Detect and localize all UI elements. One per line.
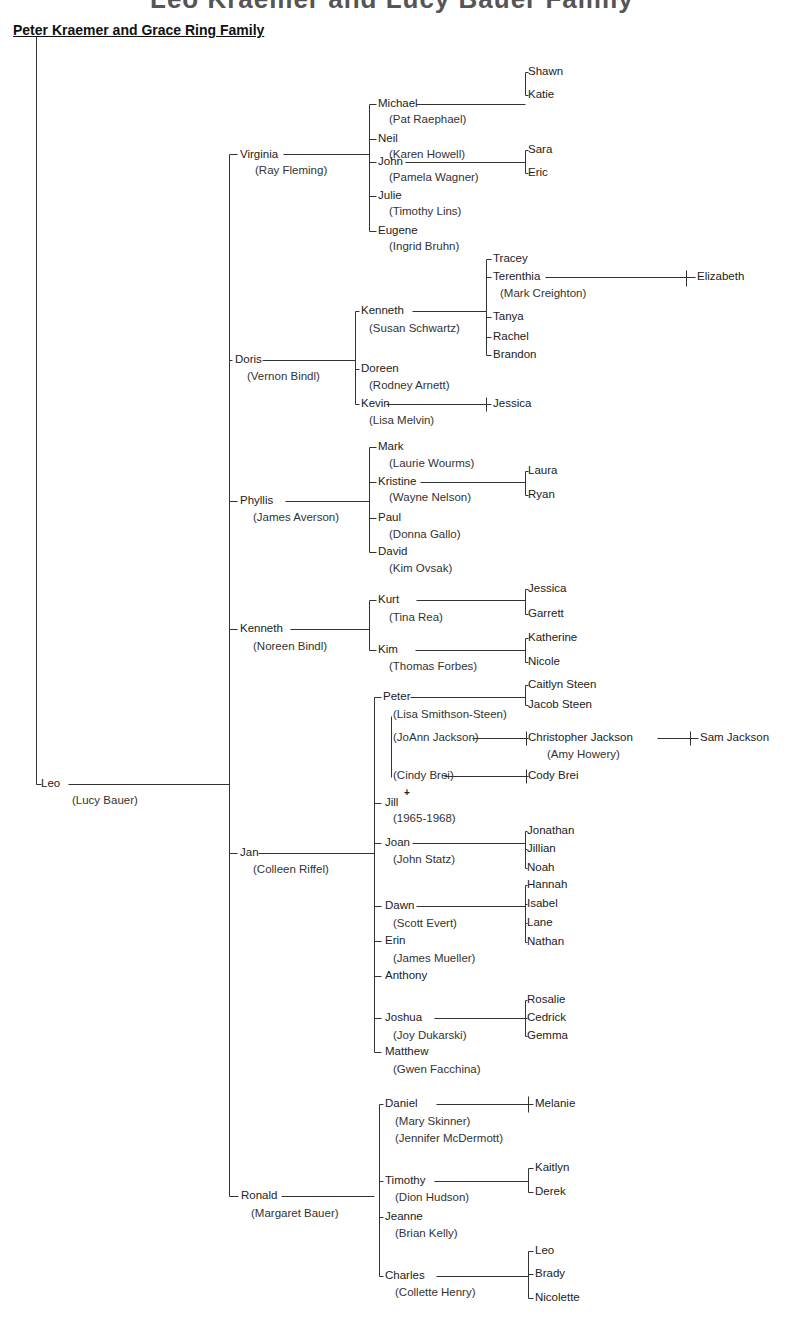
spouse-label: (Lisa Smithson-Steen) xyxy=(393,708,507,721)
spouse-label: (Scott Evert) xyxy=(393,917,457,930)
person-label: Rachel xyxy=(493,330,529,343)
person-label: Cedrick xyxy=(527,1011,566,1024)
spouse-label: (John Statz) xyxy=(393,853,455,866)
person-label: Julie xyxy=(378,189,402,202)
spouse-label: (Dion Hudson) xyxy=(395,1191,469,1204)
person-label: Kevin xyxy=(361,397,390,410)
spouse-label: (Ray Fleming) xyxy=(255,164,327,177)
person-label: Daniel xyxy=(385,1097,418,1110)
person-label: Brandon xyxy=(493,348,536,361)
person-label: Kim xyxy=(378,643,398,656)
spouse-label: (Collette Henry) xyxy=(395,1286,476,1299)
person-label: Sara xyxy=(528,143,552,156)
spouse-label: (Ingrid Bruhn) xyxy=(389,240,459,253)
spouse-label: (Susan Schwartz) xyxy=(369,322,460,335)
person-label: Jessica xyxy=(528,582,566,595)
spouse-label: (Noreen Bindl) xyxy=(253,640,327,653)
person-label: Eric xyxy=(528,166,548,179)
person-label: Jillian xyxy=(527,842,556,855)
person-label: Nicolette xyxy=(535,1291,580,1304)
person-label: Elizabeth xyxy=(697,270,744,283)
person-label: Doris xyxy=(235,353,262,366)
person-label: (1965-1968) xyxy=(393,812,456,825)
person-label: Jeanne xyxy=(385,1210,423,1223)
person-label: Terenthia xyxy=(493,270,540,283)
spouse-label: (JoAnn Jackson) xyxy=(393,731,479,744)
person-label: Leo xyxy=(535,1244,554,1257)
spouse-label: (Brian Kelly) xyxy=(395,1227,458,1240)
person-label: Melanie xyxy=(535,1097,575,1110)
spouse-label: (Colleen Riffel) xyxy=(253,863,329,876)
spouse-label: (Thomas Forbes) xyxy=(389,660,477,673)
person-label: Phyllis xyxy=(240,494,273,507)
spouse-label: (Lisa Melvin) xyxy=(369,414,434,427)
person-label: Lane xyxy=(527,916,553,929)
person-label: Michael xyxy=(378,97,418,110)
person-label: Ronald xyxy=(241,1189,277,1202)
person-label: Leo xyxy=(41,777,60,790)
person-label: Doreen xyxy=(361,362,399,375)
person-label: Hannah xyxy=(527,878,567,891)
person-label: Noah xyxy=(527,861,555,874)
person-label: Ryan xyxy=(528,488,555,501)
spouse-label: (James Mueller) xyxy=(393,952,475,965)
spouse-label: (James Averson) xyxy=(253,511,339,524)
person-label: Gemma xyxy=(527,1029,568,1042)
person-label: Jacob Steen xyxy=(528,698,592,711)
person-label: Joshua xyxy=(385,1011,422,1024)
person-label: Jonathan xyxy=(527,824,574,837)
spouse-label: (Cindy Brei) xyxy=(393,769,454,782)
person-label: Isabel xyxy=(527,897,558,910)
person-label: Laura xyxy=(528,464,557,477)
person-label: Matthew xyxy=(385,1045,428,1058)
person-label: Jessica xyxy=(493,397,531,410)
spouse-label: (Donna Gallo) xyxy=(389,528,461,541)
spouse-label: (Mary Skinner) xyxy=(395,1115,470,1128)
spouse-label: (Laurie Wourms) xyxy=(389,457,474,470)
person-label: Mark xyxy=(378,440,404,453)
person-label: David xyxy=(378,545,407,558)
person-label: Kenneth xyxy=(240,622,283,635)
spouse-label: (Kim Ovsak) xyxy=(389,562,452,575)
person-label: Peter xyxy=(383,690,411,703)
person-label: Kurt xyxy=(378,593,399,606)
person-label: Caitlyn Steen xyxy=(528,678,596,691)
spouse-label: (Pat Raephael) xyxy=(389,113,466,126)
spouse-label: (Amy Howery) xyxy=(547,748,620,761)
person-label: Virginia xyxy=(240,148,278,161)
person-label: Katherine xyxy=(528,631,577,644)
person-label: Rosalie xyxy=(527,993,565,1006)
person-label: Christopher Jackson xyxy=(528,731,633,744)
spouse-label: (Pamela Wagner) xyxy=(389,171,479,184)
person-label: Neil xyxy=(378,132,398,145)
person-label: John xyxy=(378,155,403,168)
person-label: Garrett xyxy=(528,607,564,620)
person-label: Anthony xyxy=(385,969,427,982)
person-label: Paul xyxy=(378,511,401,524)
spouse-label: (Margaret Bauer) xyxy=(251,1207,339,1220)
spouse-label: (Lucy Bauer) xyxy=(72,794,138,807)
person-label: Shawn xyxy=(528,65,563,78)
person-label: Kristine xyxy=(378,475,416,488)
spouse-label: (Vernon Bindl) xyxy=(247,370,320,383)
person-label: Derek xyxy=(535,1185,566,1198)
person-label: Cody Brei xyxy=(528,769,579,782)
person-label: Kaitlyn xyxy=(535,1161,570,1174)
person-label: Tanya xyxy=(493,310,524,323)
spouse-label: (Jennifer McDermott) xyxy=(395,1132,503,1145)
spouse-label: (Tina Rea) xyxy=(389,611,443,624)
person-label: Tracey xyxy=(493,252,528,265)
spouse-label: (Gwen Facchina) xyxy=(393,1063,481,1076)
person-label: Dawn xyxy=(385,899,414,912)
person-label: Eugene xyxy=(378,224,418,237)
deceased-mark-icon: + xyxy=(404,787,410,798)
person-label: Sam Jackson xyxy=(700,731,769,744)
person-label: Jan xyxy=(240,846,259,859)
person-label: Kenneth xyxy=(361,304,404,317)
person-label: Brady xyxy=(535,1267,565,1280)
spouse-label: (Wayne Nelson) xyxy=(389,491,471,504)
spouse-label: (Rodney Arnett) xyxy=(369,379,450,392)
person-label: Nicole xyxy=(528,655,560,668)
person-label: Katie xyxy=(528,88,554,101)
person-label: Joan xyxy=(385,836,410,849)
